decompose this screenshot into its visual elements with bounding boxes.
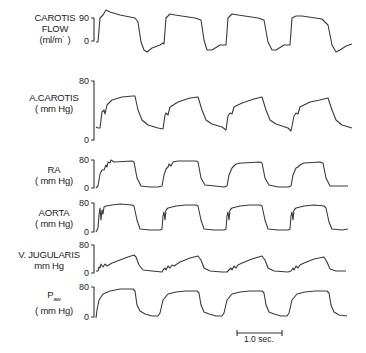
time-scale-label: 1.0 sec. [244,334,274,344]
trace-aorta [96,204,348,232]
traces [0,0,366,353]
trace-carotis-flow [96,10,352,52]
trace-v-jugularis [96,255,346,272]
trace-paw [96,289,347,318]
trace-ra [96,160,348,188]
axis-brackets [91,18,94,317]
trace-a-carotis [96,96,352,131]
